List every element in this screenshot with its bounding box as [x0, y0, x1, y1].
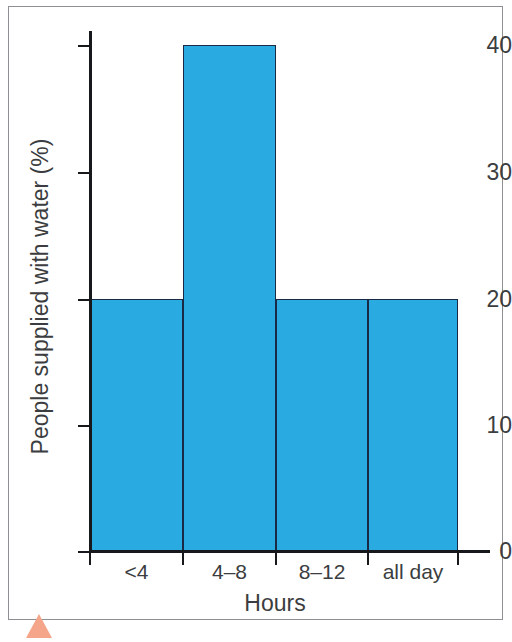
triangle-up-icon — [26, 614, 52, 638]
y-tick-label-40: 40 — [468, 34, 512, 57]
bar-all-day[interactable] — [368, 299, 458, 552]
bar-8-12[interactable] — [276, 299, 368, 552]
bar-lt4[interactable] — [90, 299, 183, 552]
bar-chart: People supplied with water (%) 40 30 20 … — [0, 0, 512, 642]
x-tick-label-all-day: all day — [368, 561, 458, 582]
x-tick-label-4-8: 4–8 — [183, 561, 276, 582]
y-tick-label-10: 10 — [468, 414, 512, 437]
y-tick-label-30: 30 — [468, 161, 512, 184]
y-tick-label-20: 20 — [468, 288, 512, 311]
y-axis-line — [89, 31, 92, 553]
y-axis-title: People supplied with water (%) — [29, 87, 52, 507]
x-axis-title: Hours — [89, 592, 461, 615]
x-axis-line — [89, 550, 490, 553]
x-tick-label-8-12: 8–12 — [276, 561, 368, 582]
x-tick-label-lt4: <4 — [90, 561, 183, 582]
bar-4-8[interactable] — [183, 45, 276, 552]
figure-page: People supplied with water (%) 40 30 20 … — [0, 0, 512, 642]
